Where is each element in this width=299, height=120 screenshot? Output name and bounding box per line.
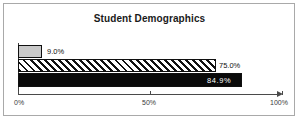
bar-label-series-1: 9.0% [47, 47, 64, 56]
bar-series-1 [18, 45, 42, 58]
x-tick-label-100: 100% [270, 99, 288, 106]
bar-series-2 [18, 59, 216, 72]
chart-screenshot: Student Demographics 0% 50% 100% 9.0% 75… [0, 0, 299, 120]
x-tick-label-0: 0% [14, 99, 24, 106]
plot-area: 0% 50% 100% 9.0% 75.0% 84.9% [0, 0, 299, 120]
bar-label-series-3: 84.9% [207, 76, 231, 85]
x-tick-100 [282, 91, 283, 95]
x-tick-label-50: 50% [142, 99, 156, 106]
bar-label-series-2: 75.0% [219, 61, 240, 70]
x-axis-line [18, 94, 278, 95]
x-tick-0 [18, 91, 19, 95]
x-tick-50 [150, 91, 151, 95]
